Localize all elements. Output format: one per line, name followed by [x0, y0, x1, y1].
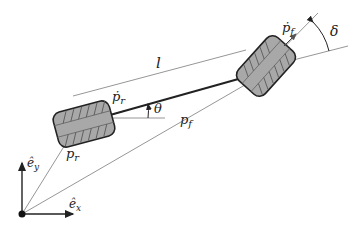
- x-axis-label: êx: [69, 197, 81, 213]
- chassis-line: [110, 78, 242, 115]
- origin-point: [19, 211, 26, 218]
- wheelbase-label: l: [156, 54, 161, 72]
- theta-arc: [148, 104, 149, 118]
- bicycle-model-diagram: l ṗr θ ṗf δ pr pf êy êx: [0, 0, 357, 235]
- delta-arc: [313, 22, 329, 51]
- front-velocity-label: ṗf: [282, 20, 296, 37]
- steering-angle-label: δ: [330, 23, 338, 39]
- rear-position-line: [22, 140, 68, 214]
- rear-wheel: [51, 99, 116, 149]
- rear-position-label: pr: [66, 146, 80, 163]
- front-position-label: pf: [180, 112, 194, 129]
- heading-angle-label: θ: [154, 101, 162, 116]
- front-position-line: [22, 82, 250, 214]
- y-axis-label: êy: [27, 156, 40, 172]
- rear-velocity-label: ṗr: [112, 89, 126, 106]
